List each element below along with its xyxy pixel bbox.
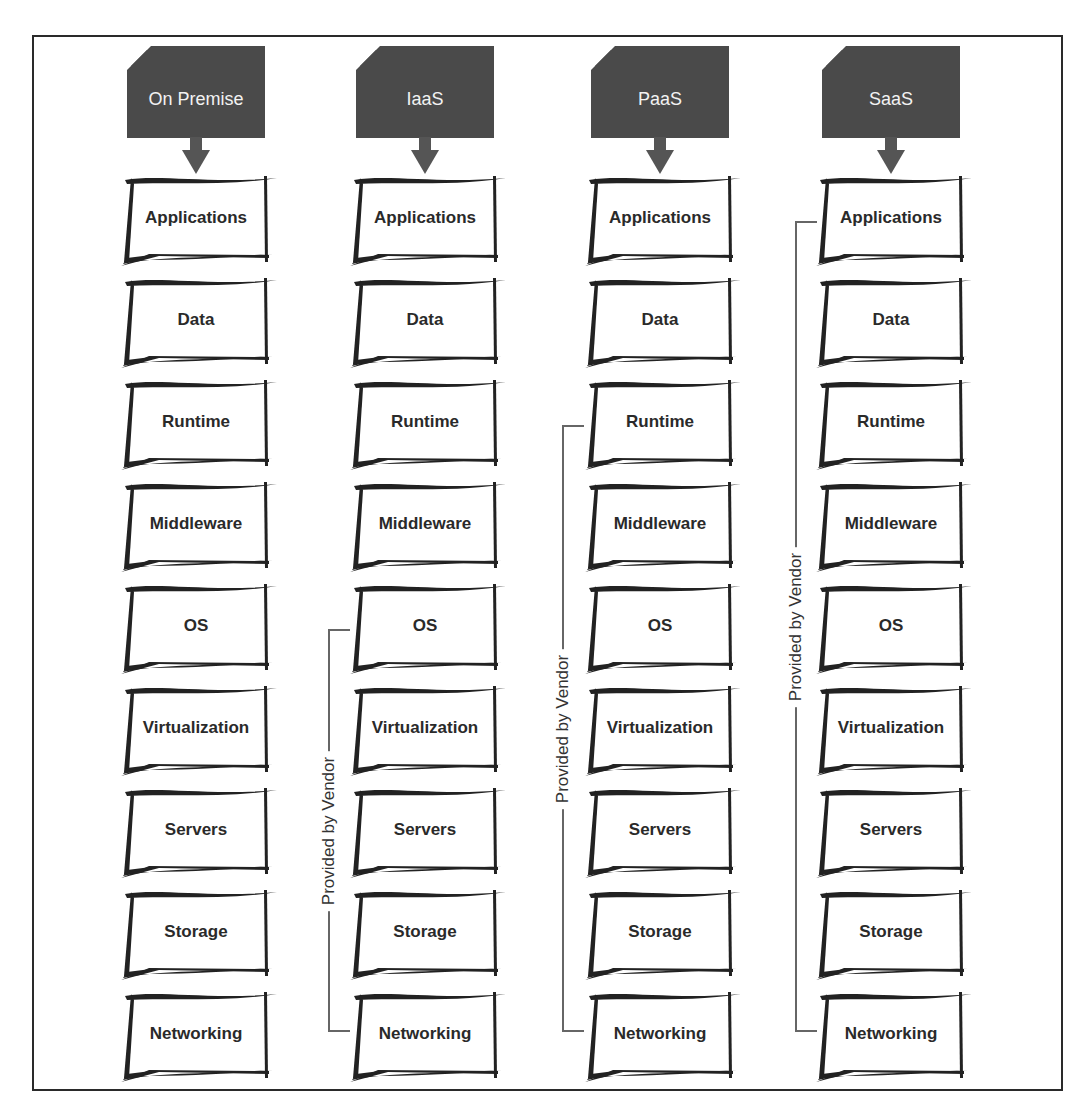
column-paas: PaaS Applications Data Runtime bbox=[591, 0, 751, 1120]
vendor-bracket-label: Provided by Vendor bbox=[786, 546, 806, 706]
layer-runtime: Runtime bbox=[356, 380, 494, 464]
layer-applications: Applications bbox=[822, 176, 960, 260]
layer-networking: Networking bbox=[822, 992, 960, 1076]
column-header-on-premise: On Premise bbox=[127, 46, 265, 138]
corner-fold-icon bbox=[360, 50, 376, 66]
layer-virtualization: Virtualization bbox=[127, 686, 265, 770]
layer-servers: Servers bbox=[822, 788, 960, 872]
layer-label: Middleware bbox=[845, 514, 938, 534]
arrow-down-icon bbox=[190, 137, 202, 151]
layer-label: Networking bbox=[150, 1024, 243, 1044]
layer-label: Virtualization bbox=[838, 718, 944, 738]
layer-label: Storage bbox=[859, 922, 922, 942]
column-on-premise: On Premise Applications Data Runtime bbox=[127, 0, 287, 1120]
arrow-down-icon bbox=[419, 137, 431, 151]
corner-fold-icon bbox=[595, 50, 611, 66]
layer-middleware: Middleware bbox=[591, 482, 729, 566]
layer-data: Data bbox=[356, 278, 494, 362]
column-header-iaas: IaaS bbox=[356, 46, 494, 138]
layer-runtime: Runtime bbox=[822, 380, 960, 464]
layer-label: Applications bbox=[145, 208, 247, 228]
layer-servers: Servers bbox=[356, 788, 494, 872]
layer-label: Servers bbox=[394, 820, 456, 840]
layer-label: Virtualization bbox=[143, 718, 249, 738]
layer-label: Virtualization bbox=[372, 718, 478, 738]
layer-label: Middleware bbox=[150, 514, 243, 534]
layer-servers: Servers bbox=[127, 788, 265, 872]
layer-label: Servers bbox=[860, 820, 922, 840]
layer-servers: Servers bbox=[591, 788, 729, 872]
column-title: On Premise bbox=[148, 89, 243, 110]
layer-label: Middleware bbox=[614, 514, 707, 534]
layer-networking: Networking bbox=[356, 992, 494, 1076]
vendor-bracket-label: Provided by Vendor bbox=[319, 750, 339, 910]
layer-os: OS bbox=[127, 584, 265, 668]
layer-label: Networking bbox=[614, 1024, 707, 1044]
layer-label: Applications bbox=[374, 208, 476, 228]
layer-label: Data bbox=[873, 310, 910, 330]
layer-label: Runtime bbox=[626, 412, 694, 432]
corner-fold-icon bbox=[131, 50, 147, 66]
layer-label: Networking bbox=[845, 1024, 938, 1044]
layer-label: Runtime bbox=[391, 412, 459, 432]
layer-label: Servers bbox=[629, 820, 691, 840]
layer-os: OS bbox=[591, 584, 729, 668]
layer-applications: Applications bbox=[591, 176, 729, 260]
layer-storage: Storage bbox=[822, 890, 960, 974]
layer-label: Applications bbox=[840, 208, 942, 228]
arrow-down-icon bbox=[654, 137, 666, 151]
layer-virtualization: Virtualization bbox=[591, 686, 729, 770]
vendor-bracket-label: Provided by Vendor bbox=[553, 648, 573, 808]
layer-label: Storage bbox=[164, 922, 227, 942]
layer-data: Data bbox=[822, 278, 960, 362]
layer-label: Virtualization bbox=[607, 718, 713, 738]
layer-label: OS bbox=[413, 616, 438, 636]
layer-label: Servers bbox=[165, 820, 227, 840]
layer-label: OS bbox=[648, 616, 673, 636]
layer-storage: Storage bbox=[591, 890, 729, 974]
layer-label: Runtime bbox=[162, 412, 230, 432]
layer-virtualization: Virtualization bbox=[822, 686, 960, 770]
layer-data: Data bbox=[127, 278, 265, 362]
layer-virtualization: Virtualization bbox=[356, 686, 494, 770]
arrow-down-icon bbox=[885, 137, 897, 151]
layer-label: Applications bbox=[609, 208, 711, 228]
layer-label: Storage bbox=[393, 922, 456, 942]
layer-applications: Applications bbox=[127, 176, 265, 260]
layer-storage: Storage bbox=[127, 890, 265, 974]
layer-middleware: Middleware bbox=[356, 482, 494, 566]
corner-fold-icon bbox=[826, 50, 842, 66]
layer-label: Data bbox=[407, 310, 444, 330]
layer-os: OS bbox=[356, 584, 494, 668]
layer-label: Networking bbox=[379, 1024, 472, 1044]
layer-networking: Networking bbox=[127, 992, 265, 1076]
column-title: SaaS bbox=[869, 89, 913, 110]
layer-middleware: Middleware bbox=[127, 482, 265, 566]
column-saas: SaaS Applications Data Runtime bbox=[822, 0, 982, 1120]
layer-runtime: Runtime bbox=[591, 380, 729, 464]
layer-label: OS bbox=[879, 616, 904, 636]
layer-label: Storage bbox=[628, 922, 691, 942]
column-header-paas: PaaS bbox=[591, 46, 729, 138]
layer-label: Data bbox=[178, 310, 215, 330]
layer-storage: Storage bbox=[356, 890, 494, 974]
layer-label: OS bbox=[184, 616, 209, 636]
layer-middleware: Middleware bbox=[822, 482, 960, 566]
layer-label: Data bbox=[642, 310, 679, 330]
layer-label: Runtime bbox=[857, 412, 925, 432]
layer-runtime: Runtime bbox=[127, 380, 265, 464]
layer-networking: Networking bbox=[591, 992, 729, 1076]
layer-data: Data bbox=[591, 278, 729, 362]
column-title: IaaS bbox=[406, 89, 443, 110]
column-iaas: IaaS Applications Data Runtime bbox=[356, 0, 516, 1120]
layer-os: OS bbox=[822, 584, 960, 668]
column-header-saas: SaaS bbox=[822, 46, 960, 138]
column-title: PaaS bbox=[638, 89, 682, 110]
layer-applications: Applications bbox=[356, 176, 494, 260]
layer-label: Middleware bbox=[379, 514, 472, 534]
